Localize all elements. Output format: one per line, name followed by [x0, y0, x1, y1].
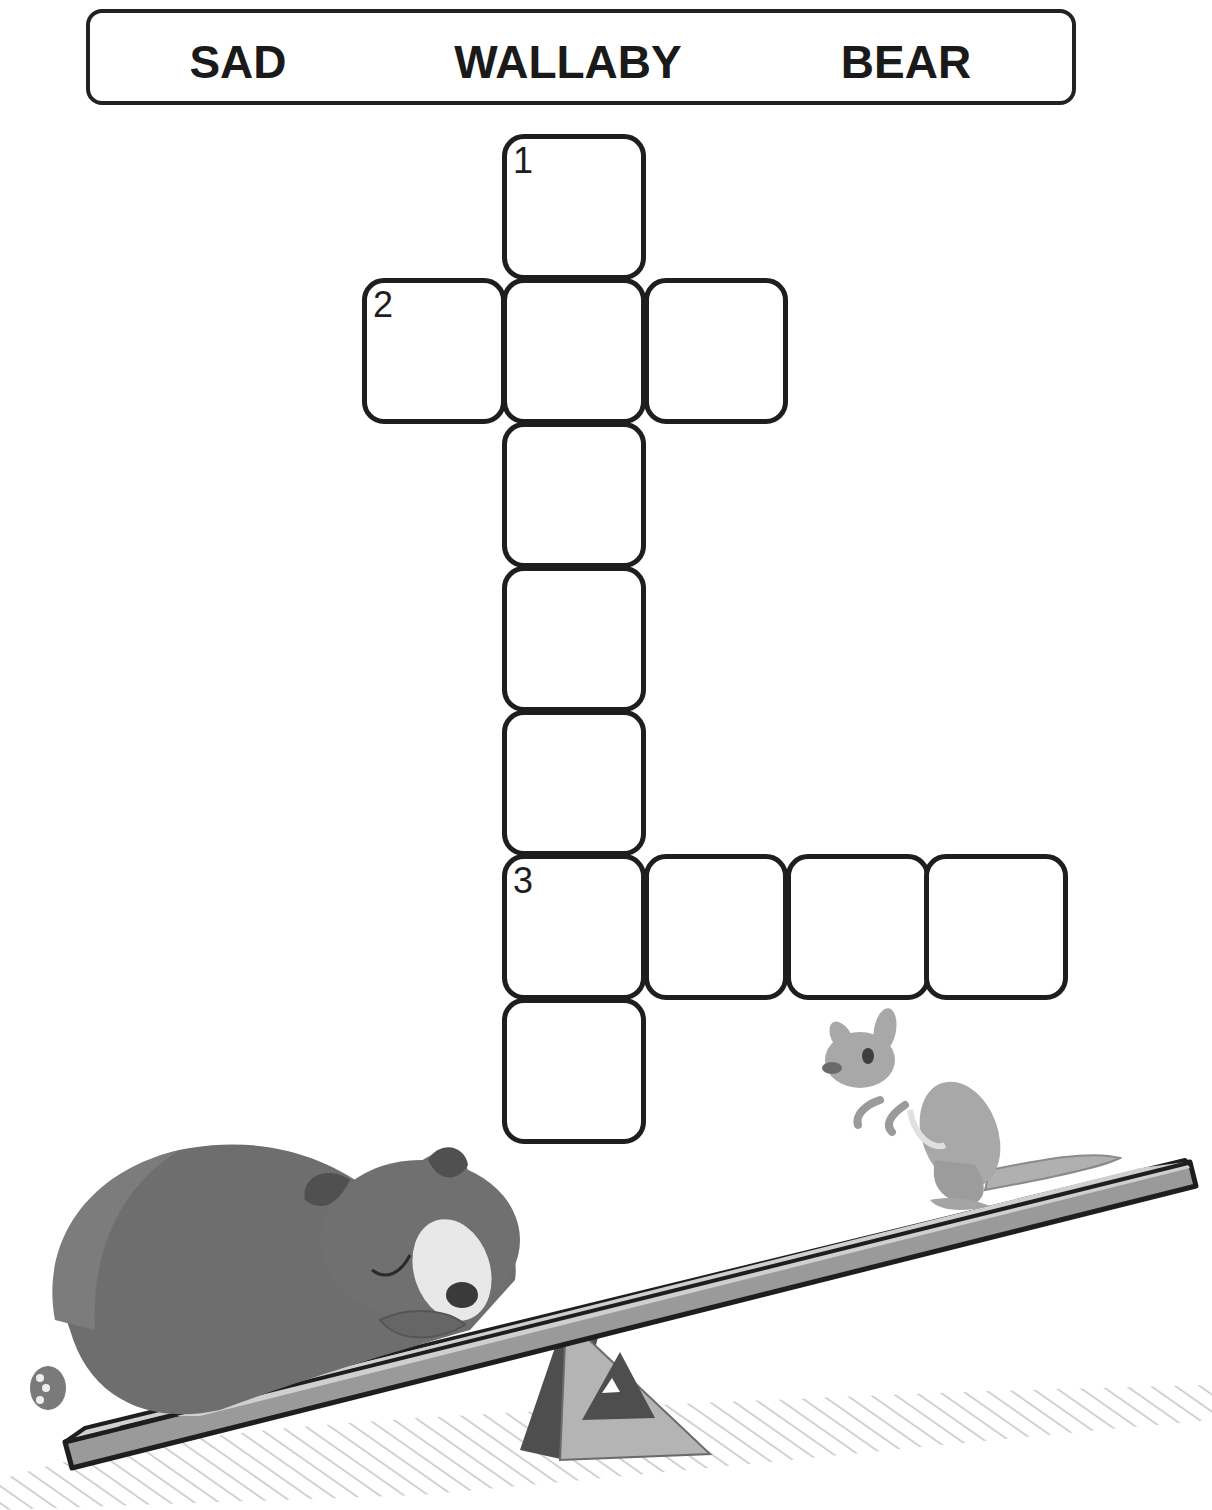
- crossword-cell[interactable]: [644, 854, 788, 1000]
- fulcrum-icon: [520, 1318, 710, 1460]
- word-bank-item: SAD: [189, 37, 286, 87]
- crossword-cell[interactable]: [502, 278, 646, 424]
- sleeping-bear: [30, 1144, 520, 1414]
- ground-shadow: [0, 1385, 1212, 1510]
- crossword-cell[interactable]: [502, 710, 646, 856]
- clue-number: 2: [373, 285, 393, 325]
- crossword-cell[interactable]: [924, 854, 1068, 1000]
- crossword-cell[interactable]: 2: [362, 278, 506, 424]
- word-bank-item: WALLABY: [454, 37, 681, 87]
- crossword-cell[interactable]: [502, 422, 646, 568]
- crossword-cell[interactable]: 3: [502, 854, 646, 1000]
- word-bank: SAD WALLABY BEAR: [86, 9, 1076, 105]
- clue-number: 3: [513, 861, 533, 901]
- crossword-cell[interactable]: 1: [502, 134, 646, 280]
- crossword-cell[interactable]: [644, 278, 788, 424]
- word-bank-item: BEAR: [841, 37, 971, 87]
- seesaw-plank: [65, 1160, 1196, 1468]
- wallaby: [822, 1006, 1120, 1210]
- crossword-cell[interactable]: [786, 854, 930, 1000]
- clue-number: 1: [513, 141, 533, 181]
- crossword-cell[interactable]: [502, 998, 646, 1144]
- crossword-cell[interactable]: [502, 566, 646, 712]
